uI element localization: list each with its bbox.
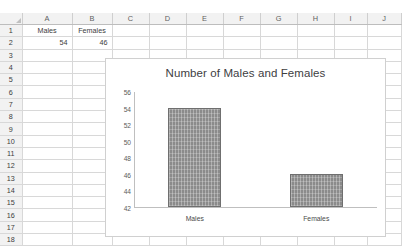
row-header-10[interactable]: 10 [0,135,22,147]
cell-a1[interactable]: Males [22,25,72,37]
row-header-16[interactable]: 16 [0,209,22,221]
row-header-18[interactable]: 18 [0,234,22,246]
row-header-12[interactable]: 12 [0,160,22,172]
cell-f2[interactable] [223,37,260,49]
cell-c2[interactable] [112,37,149,49]
cell-a17[interactable] [22,221,72,233]
cell-a13[interactable] [22,172,72,184]
chart-title: Number of Males and Females [106,67,385,79]
y-axis-line [134,92,135,208]
y-axis-tick-54: 54 [124,105,131,112]
cell-a16[interactable] [22,209,72,221]
cell-i1[interactable] [334,25,367,37]
cell-a15[interactable] [22,197,72,209]
column-header-c[interactable]: C [112,13,149,25]
cell-e2[interactable] [186,37,223,49]
cell-a14[interactable] [22,184,72,196]
cell-b2[interactable]: 46 [72,37,112,49]
bar-males[interactable] [168,108,221,207]
y-axis-tick-50: 50 [124,138,131,145]
cell-a11[interactable] [22,147,72,159]
row-header-9[interactable]: 9 [0,123,22,135]
row-header-5[interactable]: 5 [0,74,22,86]
cell-a3[interactable] [22,49,72,61]
select-all-triangle-icon [16,18,21,23]
column-header-h[interactable]: H [297,13,334,25]
row-header-7[interactable]: 7 [0,98,22,110]
column-header-a[interactable]: A [22,13,72,25]
x-axis-line [134,207,377,208]
cell-a10[interactable] [22,135,72,147]
cell-d2[interactable] [149,37,186,49]
y-axis-tick-42: 42 [124,205,131,212]
cell-a9[interactable] [22,123,72,135]
cell-a18[interactable] [22,234,72,246]
cell-j2[interactable] [367,37,401,49]
cell-f1[interactable] [223,25,260,37]
y-axis-tick-46: 46 [124,171,131,178]
cell-a4[interactable] [22,61,72,73]
y-axis-tick-52: 52 [124,122,131,129]
cell-i2[interactable] [334,37,367,49]
cell-a7[interactable] [22,98,72,110]
row-header-2[interactable]: 2 [0,37,22,49]
cell-a6[interactable] [22,86,72,98]
row-header-4[interactable]: 4 [0,61,22,73]
cell-g1[interactable] [260,25,297,37]
y-axis-tick-48: 48 [124,155,131,162]
row-header-15[interactable]: 15 [0,197,22,209]
category-label-females: Females [303,215,329,222]
column-header-row: A B C D E F G H I J [0,13,401,25]
column-header-i[interactable]: I [334,13,367,25]
cell-a5[interactable] [22,74,72,86]
y-axis-tick-44: 44 [124,188,131,195]
column-header-f[interactable]: F [223,13,260,25]
column-header-e[interactable]: E [186,13,223,25]
column-header-d[interactable]: D [149,13,186,25]
row-header-17[interactable]: 17 [0,221,22,233]
row-header-3[interactable]: 3 [0,49,22,61]
cell-j1[interactable] [367,25,401,37]
cell-h1[interactable] [297,25,334,37]
column-header-g[interactable]: G [260,13,297,25]
row-header-14[interactable]: 14 [0,184,22,196]
row-header-11[interactable]: 11 [0,147,22,159]
embedded-bar-chart[interactable]: Number of Males and Females 424446485052… [105,58,386,237]
row-header-1[interactable]: 1 [0,25,22,37]
chart-plot-area: 4244464850525456 MalesFemales [134,92,377,208]
cell-c1[interactable] [112,25,149,37]
column-header-b[interactable]: B [72,13,112,25]
cell-a12[interactable] [22,160,72,172]
table-row: 1 Males Females [0,25,401,37]
y-axis-tick-56: 56 [124,89,131,96]
cell-g2[interactable] [260,37,297,49]
select-all-button[interactable] [0,13,22,25]
row-header-8[interactable]: 8 [0,111,22,123]
row-header-6[interactable]: 6 [0,86,22,98]
row-header-13[interactable]: 13 [0,172,22,184]
cell-b1[interactable]: Females [72,25,112,37]
table-row: 2 54 46 [0,37,401,49]
cell-d1[interactable] [149,25,186,37]
bar-females[interactable] [290,174,343,207]
column-header-j[interactable]: J [367,13,401,25]
cell-e1[interactable] [186,25,223,37]
cell-h2[interactable] [297,37,334,49]
cell-a2[interactable]: 54 [22,37,72,49]
cell-a8[interactable] [22,111,72,123]
category-label-males: Males [186,215,204,222]
